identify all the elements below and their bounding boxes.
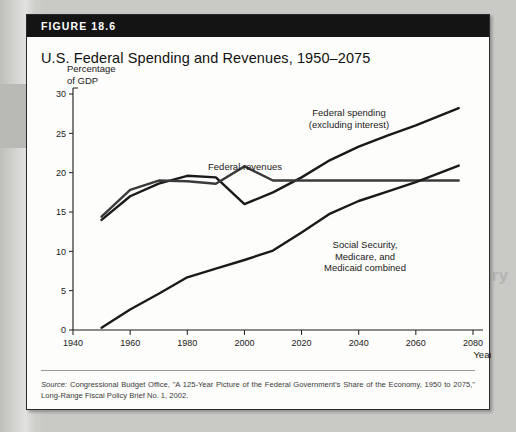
chart-annotations: Federal spending(excluding interest)Fede… — [208, 107, 406, 273]
line-chart-svg: 0510152025301940196019802000202020402060… — [27, 66, 491, 366]
figure-card: FIGURE 18.6 U.S. Federal Spending and Re… — [26, 14, 490, 410]
source-note: Source: Congressional Budget Office, "A … — [41, 379, 475, 401]
figure-number-label: FIGURE 18.6 — [27, 20, 116, 32]
source-citation: Congressional Budget Office, "A 125-Year… — [41, 380, 475, 400]
y-tick-5: 5 — [61, 286, 66, 296]
y-axis-label-line2: of GDP — [67, 75, 98, 86]
x-tick-2060: 2060 — [406, 338, 426, 348]
y-axis-label-line1: Percentage — [67, 66, 116, 74]
annotation-entitlements-line2: Medicare, and — [335, 251, 395, 262]
y-tick-0: 0 — [61, 325, 66, 335]
y-tick-30: 30 — [56, 89, 66, 99]
page-edge-tab — [0, 84, 26, 148]
annotation-federal-spending-line2: (excluding interest) — [309, 119, 389, 130]
y-tick-10: 10 — [56, 247, 66, 257]
y-tick-15: 15 — [56, 207, 66, 217]
figure-header-bar: FIGURE 18.6 — [27, 15, 489, 37]
annotation-entitlements-line3: Medicaid combined — [324, 262, 406, 273]
x-tick-2040: 2040 — [349, 338, 369, 348]
x-tick-1940: 1940 — [63, 338, 83, 348]
x-tick-1980: 1980 — [177, 338, 197, 348]
series-line-1 — [102, 166, 459, 216]
annotation-federal-spending-line1: Federal spending — [312, 107, 385, 118]
x-tick-1960: 1960 — [120, 338, 140, 348]
source-label: Source: — [41, 380, 67, 389]
annotation-federal-revenues-line1: Federal revenues — [208, 161, 282, 172]
x-axis-label: Year — [473, 349, 491, 360]
annotation-entitlements-line1: Social Security, — [333, 239, 398, 250]
x-tick-2080: 2080 — [463, 338, 483, 348]
source-divider — [41, 370, 475, 371]
y-tick-25: 25 — [56, 129, 66, 139]
x-tick-2020: 2020 — [292, 338, 312, 348]
x-tick-2000: 2000 — [234, 338, 254, 348]
y-tick-20: 20 — [56, 168, 66, 178]
figure-title: U.S. Federal Spending and Revenues, 1950… — [27, 37, 489, 66]
chart-plot-area: 0510152025301940196019802000202020402060… — [27, 66, 491, 366]
chart-series — [102, 108, 459, 327]
